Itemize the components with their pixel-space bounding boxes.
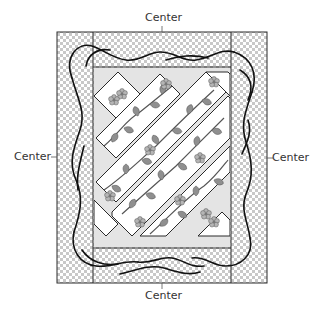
quilt-diagram: Center Center Center Center	[0, 0, 324, 313]
center-field	[94, 68, 230, 247]
center-label-top: Center	[145, 12, 182, 24]
center-label-right: Center	[272, 152, 309, 164]
center-label-left: Center	[14, 151, 51, 163]
center-label-bottom: Center	[145, 290, 182, 302]
